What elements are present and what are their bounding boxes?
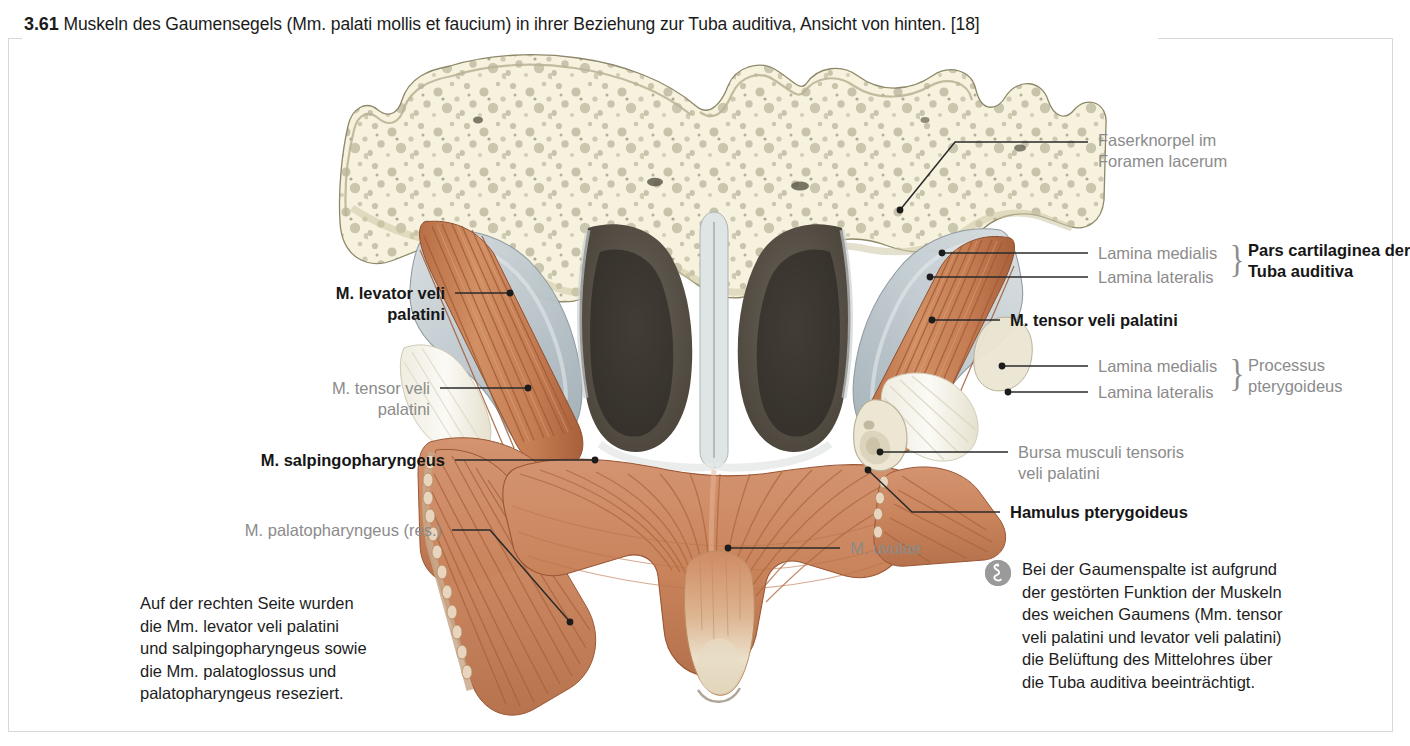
- label-pars-cartilaginea: Pars cartilaginea der Tuba auditiva: [1248, 240, 1410, 282]
- brace-tuba: }: [1230, 240, 1245, 278]
- label-hamulus: Hamulus pterygoideus: [1010, 502, 1188, 523]
- clinical-note: Bei der Gaumenspalte ist aufgrund der ge…: [985, 558, 1385, 693]
- aesculapian-staff-icon: [985, 560, 1011, 586]
- figure-caption: 3.61 Muskeln des Gaumensegels (Mm. palat…: [24, 14, 980, 35]
- label-lamina-medialis-proc: Lamina medialis: [1098, 356, 1217, 377]
- label-bursa: Bursa musculi tensoris veli palatini: [1018, 442, 1184, 484]
- label-salpingopharyngeus: M. salpingopharyngeus: [175, 450, 445, 471]
- frame-top-right-segment: [1158, 38, 1393, 39]
- label-processus-pterygoideus: Processus pterygoideus: [1248, 355, 1342, 397]
- label-palatopharyngeus: M. palatopharyngeus (res.): [160, 520, 442, 541]
- figure-caption-text: Muskeln des Gaumensegels (Mm. palati mol…: [63, 14, 979, 34]
- label-lamina-lateralis-tuba: Lamina lateralis: [1098, 267, 1214, 288]
- label-tensor-right: M. tensor veli palatini: [1010, 310, 1178, 331]
- label-tensor-left: M. tensor veli palatini: [215, 378, 430, 420]
- clinical-note-text: Bei der Gaumenspalte ist aufgrund der ge…: [1022, 558, 1282, 693]
- label-lamina-medialis-tuba: Lamina medialis: [1098, 243, 1217, 264]
- label-uvulae: M. uvulae: [850, 538, 922, 559]
- label-levator: M. levator veli palatini: [215, 283, 445, 325]
- label-faserknorpel: Faserknorpel im Foramen lacerum: [1098, 130, 1227, 172]
- figure-number: 3.61: [24, 14, 59, 34]
- frame-top-left-segment: [8, 38, 22, 39]
- resection-note: Auf der rechten Seite wurden die Mm. lev…: [140, 592, 470, 705]
- brace-processus: }: [1230, 354, 1245, 392]
- label-lamina-lateralis-proc: Lamina lateralis: [1098, 382, 1214, 403]
